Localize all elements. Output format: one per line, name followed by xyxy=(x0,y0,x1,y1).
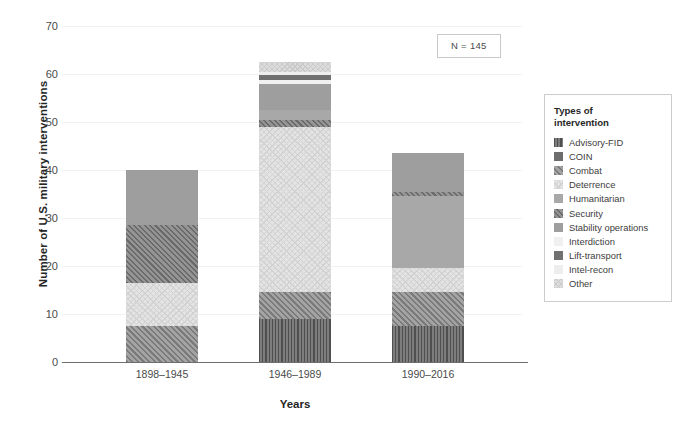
swatch-stability-operations-icon xyxy=(554,223,563,232)
legend-item-lift-transport[interactable]: Lift-transport xyxy=(554,249,663,263)
legend-title: Types ofintervention xyxy=(554,105,663,129)
legend-label-combat: Combat xyxy=(569,165,602,176)
swatch-coin-icon xyxy=(554,152,563,161)
segment-combat xyxy=(392,292,464,326)
y-tick-50: 50 xyxy=(24,116,58,128)
swatch-lift-transport-icon xyxy=(554,251,563,260)
legend-label-other: Other xyxy=(569,278,592,289)
legend-label-stability-operations: Stability operations xyxy=(569,222,648,233)
segment-humanitarian xyxy=(259,110,331,120)
segment-advisory-fid xyxy=(392,326,464,362)
swatch-intel-recon-icon xyxy=(554,265,563,274)
segment-intel-recon xyxy=(259,72,331,76)
legend-label-intel-recon: Intel-recon xyxy=(569,264,613,275)
segment-deterrence xyxy=(259,127,331,293)
legend-item-coin[interactable]: COIN xyxy=(554,149,663,163)
segment-advisory-fid xyxy=(259,319,331,362)
segment-stability-operations xyxy=(259,84,331,110)
y-tick-10: 10 xyxy=(24,308,58,320)
swatch-deterrence-icon xyxy=(554,180,563,189)
legend-title-line2: intervention xyxy=(554,117,609,128)
swatch-advisory-fid-icon xyxy=(554,138,563,147)
segment-stability-operations xyxy=(126,170,198,225)
legend-item-deterrence[interactable]: Deterrence xyxy=(554,178,663,192)
legend-label-lift-transport: Lift-transport xyxy=(569,250,622,261)
legend-label-interdiction: Interdiction xyxy=(569,236,615,247)
segment-deterrence xyxy=(392,268,464,292)
x-axis-line xyxy=(62,362,528,363)
bar-1946-1989[interactable] xyxy=(259,62,331,362)
swatch-other-icon xyxy=(554,279,563,288)
y-tick-60: 60 xyxy=(24,68,58,80)
segment-combat xyxy=(126,326,198,362)
legend: Types ofintervention Advisory-FID COIN C… xyxy=(544,94,672,302)
segment-stability-operations xyxy=(392,153,464,191)
swatch-interdiction-icon xyxy=(554,237,563,246)
legend-label-coin: COIN xyxy=(569,151,592,162)
segment-combat xyxy=(259,292,331,318)
legend-item-intel-recon[interactable]: Intel-recon xyxy=(554,263,663,277)
stacked-bar-chart: Number of U.S. military interventions 70… xyxy=(0,0,681,429)
legend-label-security: Security xyxy=(569,208,603,219)
legend-item-advisory-fid[interactable]: Advisory-FID xyxy=(554,135,663,149)
legend-item-stability-operations[interactable]: Stability operations xyxy=(554,220,663,234)
bar-1898-1945[interactable] xyxy=(126,170,198,362)
swatch-humanitarian-icon xyxy=(554,194,563,203)
x-tick-1946-1989: 1946–1989 xyxy=(235,368,355,380)
y-tick-20: 20 xyxy=(24,260,58,272)
sample-size-annotation: N = 145 xyxy=(437,34,501,58)
x-tick-1898-1945: 1898–1945 xyxy=(102,368,222,380)
segment-security xyxy=(392,192,464,197)
segment-security xyxy=(126,225,198,283)
legend-item-interdiction[interactable]: Interdiction xyxy=(554,234,663,248)
bar-1990-2016[interactable] xyxy=(392,153,464,362)
x-axis-title: Years xyxy=(62,398,528,410)
y-tick-30: 30 xyxy=(24,212,58,224)
swatch-security-icon xyxy=(554,209,563,218)
legend-label-humanitarian: Humanitarian xyxy=(569,193,625,204)
y-tick-0: 0 xyxy=(24,356,58,368)
swatch-combat-icon xyxy=(554,166,563,175)
y-tick-70: 70 xyxy=(24,20,58,32)
legend-label-advisory-fid: Advisory-FID xyxy=(569,137,623,148)
segment-deterrence xyxy=(126,283,198,326)
legend-title-line1: Types of xyxy=(554,105,593,116)
legend-item-combat[interactable]: Combat xyxy=(554,163,663,177)
y-axis-ticks: 70 60 50 40 30 20 10 0 xyxy=(12,0,58,429)
segment-security xyxy=(259,120,331,127)
x-tick-1990-2016: 1990–2016 xyxy=(368,368,488,380)
segment-humanitarian xyxy=(392,196,464,268)
legend-item-other[interactable]: Other xyxy=(554,277,663,291)
segment-lift-transport xyxy=(259,75,331,80)
legend-item-security[interactable]: Security xyxy=(554,206,663,220)
segment-interdiction xyxy=(259,80,331,83)
legend-item-humanitarian[interactable]: Humanitarian xyxy=(554,192,663,206)
segment-other xyxy=(259,62,331,72)
legend-label-deterrence: Deterrence xyxy=(569,179,615,190)
y-tick-40: 40 xyxy=(24,164,58,176)
